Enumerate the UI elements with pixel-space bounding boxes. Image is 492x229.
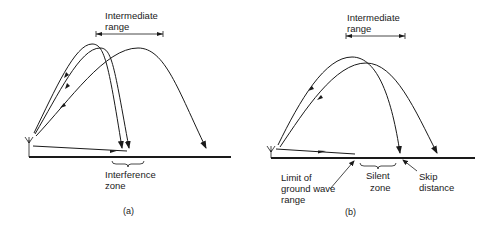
interference-zone-label: Interference bbox=[105, 169, 156, 180]
arrow-icon bbox=[317, 95, 323, 100]
sky-wave-3 bbox=[36, 48, 206, 148]
limit-ground-wave-label: Limit of bbox=[281, 172, 312, 183]
interference-zone-brace bbox=[112, 161, 144, 167]
skip-pointer-arrow bbox=[403, 160, 417, 171]
silent-zone-label: Silent bbox=[366, 170, 390, 181]
limit-ground-wave-label: range bbox=[281, 194, 305, 205]
sky-wave-2 bbox=[35, 48, 129, 148]
intermediate-range-label: range bbox=[347, 23, 371, 34]
silent-zone-brace bbox=[360, 163, 396, 169]
antenna-icon bbox=[267, 146, 275, 158]
sky-wave-1 bbox=[278, 57, 400, 153]
arrow-icon bbox=[65, 83, 70, 89]
intermediate-range-label: Intermediate bbox=[105, 10, 158, 21]
antenna-icon bbox=[25, 137, 33, 157]
skip-distance-label: distance bbox=[419, 182, 454, 193]
interference-zone-label: zone bbox=[105, 180, 126, 191]
skip-distance-label: Skip bbox=[419, 171, 437, 182]
panel-b: Intermediate range Silent zone Limit of … bbox=[267, 12, 475, 217]
intermediate-range-label: range bbox=[105, 21, 129, 32]
arrow-icon bbox=[110, 150, 118, 153]
silent-zone-label: zone bbox=[370, 182, 391, 193]
radio-propagation-diagram: Intermediate range Interference zone (a) bbox=[0, 0, 492, 229]
sky-wave-2 bbox=[280, 63, 437, 153]
intermediate-range-label: Intermediate bbox=[347, 12, 400, 23]
panel-a: Intermediate range Interference zone (a) bbox=[25, 10, 231, 216]
limit-ground-wave-label: ground wave bbox=[281, 183, 335, 194]
panel-caption: (a) bbox=[123, 206, 134, 216]
panel-caption: (b) bbox=[345, 207, 356, 217]
ground-wave bbox=[276, 149, 355, 154]
